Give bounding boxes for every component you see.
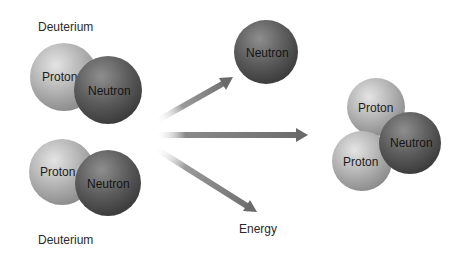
neutron-label: Neutron — [88, 84, 131, 98]
proton-label: Proton — [42, 70, 77, 84]
neutron-label: Neutron — [87, 177, 130, 191]
neutron-label: Neutron — [390, 136, 433, 150]
deuterium-label-bottom: Deuterium — [38, 233, 93, 247]
fusion-diagram: Deuterium Proton Neutron Proton Neutron … — [0, 0, 469, 254]
deuterium-bottom: Proton Neutron — [29, 139, 141, 216]
proton-label: Proton — [40, 165, 75, 179]
arrow-to-energy — [155, 148, 257, 212]
helium-nucleus: Proton Proton Neutron — [332, 78, 441, 191]
proton-label: Proton — [343, 155, 378, 169]
energy-label: Energy — [239, 222, 277, 236]
arrow-to-neutron — [155, 77, 233, 122]
deuterium-label-top: Deuterium — [38, 20, 93, 34]
arrow-to-helium — [155, 128, 308, 142]
free-neutron: Neutron — [234, 20, 298, 84]
proton-label: Proton — [358, 101, 393, 115]
neutron-label: Neutron — [246, 46, 289, 60]
deuterium-top: Proton Neutron — [30, 43, 142, 124]
